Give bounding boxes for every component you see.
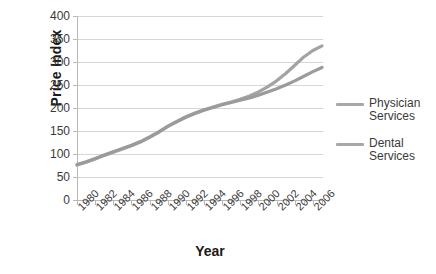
legend-label-physician-line2: Services (369, 110, 436, 123)
chart-legend: Physician Services Dental Services (336, 97, 436, 177)
legend-swatch-dental (336, 143, 364, 146)
x-axis-title: Year (155, 243, 265, 259)
legend-label-physician: Physician Services (369, 97, 436, 123)
legend-swatch-physician (336, 103, 364, 106)
legend-item-dental-services[interactable]: Dental Services (336, 137, 436, 163)
line-chart: Price Index 050100150200250300350400 198… (0, 0, 436, 274)
series-line-physician-services (77, 46, 322, 165)
legend-item-physician-services[interactable]: Physician Services (336, 97, 436, 123)
series-line-dental-services (77, 68, 322, 165)
legend-label-dental-line2: Services (369, 150, 436, 163)
legend-label-dental: Dental Services (369, 137, 436, 163)
